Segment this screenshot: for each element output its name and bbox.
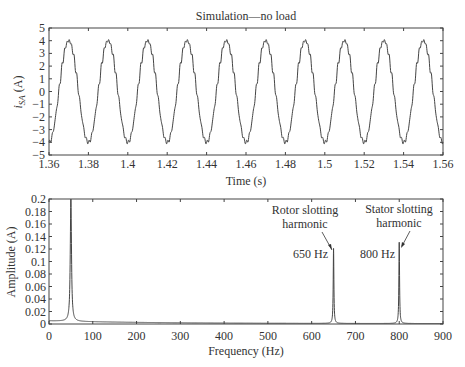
x-tick-label: 1.44 bbox=[196, 157, 217, 171]
rotor-annotation-line2: harmonic bbox=[282, 217, 327, 231]
frequency-spectrum-plot: 0.20.180.160.140.120.10.080.060.040.020 … bbox=[4, 192, 452, 358]
top-x-axis-label: Time (s) bbox=[226, 174, 267, 188]
x-tick-label: 1.36 bbox=[39, 157, 60, 171]
x-tick-label: 1.46 bbox=[236, 157, 257, 171]
harmonic-annotations: Rotor slottingharmonic650 HzStator slott… bbox=[272, 202, 433, 261]
top-x-axis-ticks: 1.361.381.41.421.441.461.481.51.521.541.… bbox=[39, 28, 454, 171]
rotor-arrowhead-icon bbox=[328, 244, 332, 250]
x-tick-label: 1.5 bbox=[317, 157, 332, 171]
rotor-freq-label: 650 Hz bbox=[293, 247, 328, 261]
figure: Simulation—no load 543210−1−2−3−4−5 1.36… bbox=[0, 0, 465, 367]
x-tick-label: 100 bbox=[84, 329, 102, 343]
x-tick-label: 300 bbox=[171, 329, 189, 343]
stator-arrowhead-icon bbox=[401, 242, 405, 248]
x-tick-label: 0 bbox=[46, 329, 52, 343]
x-tick-label: 800 bbox=[390, 329, 408, 343]
x-tick-label: 200 bbox=[128, 329, 146, 343]
x-tick-label: 1.54 bbox=[393, 157, 414, 171]
x-tick-label: 600 bbox=[303, 329, 321, 343]
x-tick-label: 900 bbox=[434, 329, 452, 343]
top-plot-title: Simulation—no load bbox=[196, 9, 296, 23]
x-tick-label: 1.48 bbox=[275, 157, 296, 171]
x-tick-label: 1.56 bbox=[433, 157, 454, 171]
current-waveform bbox=[49, 40, 443, 144]
x-tick-label: 1.4 bbox=[120, 157, 135, 171]
stator-freq-label: 800 Hz bbox=[360, 247, 395, 261]
rotor-annotation-line1: Rotor slotting bbox=[272, 203, 338, 217]
x-tick-label: 400 bbox=[215, 329, 233, 343]
top-y-axis-ticks: 543210−1−2−3−4−5 bbox=[32, 21, 443, 162]
x-tick-label: 500 bbox=[259, 329, 277, 343]
stator-annotation-line2: harmonic bbox=[376, 216, 421, 230]
top-y-axis-label: iSA (A) bbox=[11, 75, 27, 108]
bottom-x-axis-label: Frequency (Hz) bbox=[208, 344, 284, 358]
time-domain-plot: Simulation—no load 543210−1−2−3−4−5 1.36… bbox=[11, 9, 454, 188]
x-tick-label: 1.42 bbox=[157, 157, 178, 171]
stator-annotation-line1: Stator slotting bbox=[365, 202, 433, 216]
top-plot-frame bbox=[49, 28, 443, 155]
x-tick-label: 1.52 bbox=[354, 157, 375, 171]
x-tick-label: 1.38 bbox=[78, 157, 99, 171]
x-tick-label: 700 bbox=[346, 329, 364, 343]
bottom-y-axis-label: Amplitude (A) bbox=[4, 227, 18, 298]
